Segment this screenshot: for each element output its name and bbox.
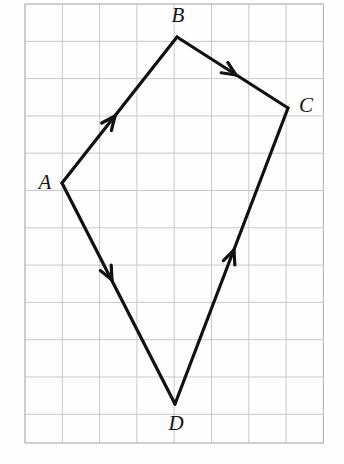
figure-container: A B C D <box>0 0 344 464</box>
vertex-label-c: C <box>299 93 314 117</box>
vertex-label-d: D <box>167 411 183 435</box>
vertex-label-b: B <box>172 3 185 27</box>
vertex-label-a: A <box>37 170 52 194</box>
figure-background <box>0 0 344 464</box>
arrowhead-DC-barb-0 <box>234 250 235 265</box>
geometry-figure: A B C D <box>0 0 344 464</box>
arrowhead-AD-barb-1 <box>111 265 112 280</box>
